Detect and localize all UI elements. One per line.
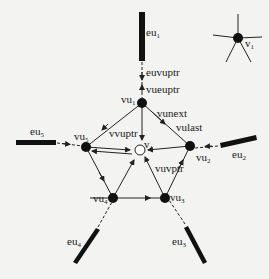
label-vunext: vunext — [157, 108, 187, 119]
label-eu5: eu5 — [30, 126, 44, 139]
label-vu3: vu3 — [170, 192, 185, 205]
label-vu4: vu4 — [93, 193, 108, 206]
vertex-use-vu3 — [160, 193, 170, 203]
diagram-graphics — [0, 0, 269, 279]
edge-eu1-bar — [139, 12, 145, 61]
edge-eu2-bar — [220, 135, 257, 148]
label-vueuptr: vueuptr — [146, 84, 180, 95]
label-eu4: eu4 — [67, 236, 81, 249]
label-vu1: vu1 — [121, 94, 136, 107]
vertex-use-vu4 — [108, 193, 118, 203]
edge-eu5-bar — [16, 140, 56, 145]
label-legend-v1: v1 — [245, 38, 254, 51]
label-eu1: eu1 — [146, 27, 160, 40]
label-v1: v1 — [144, 139, 153, 152]
label-eu2: eu2 — [232, 149, 246, 162]
label-eu3: eu3 — [172, 236, 186, 249]
label-vvuptr: vvuptr — [109, 128, 138, 139]
label-euvuptr: euvuptr — [146, 67, 180, 78]
label-vu5: vu5 — [74, 131, 89, 144]
vertex-use-diagram: eu1 euvuptr vueuptr vu1 vunext vulast vv… — [0, 0, 269, 279]
label-vuvptr: vuvptr — [155, 163, 184, 174]
edge-eu3-bar — [184, 226, 207, 264]
legend-vertex-dot — [233, 33, 243, 43]
label-vulast: vulast — [176, 122, 202, 133]
vertex-use-vu1 — [137, 98, 147, 108]
vertex-use-vu2 — [185, 141, 195, 151]
label-vu2: vu2 — [196, 152, 211, 165]
